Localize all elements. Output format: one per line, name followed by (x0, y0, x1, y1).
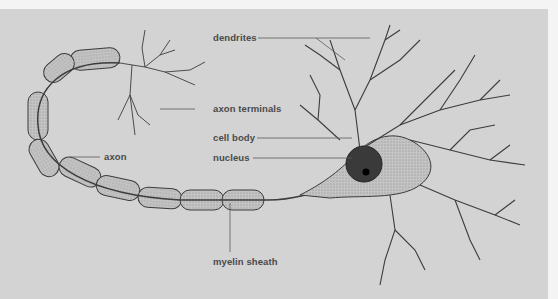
label-cell-body: cell body (213, 132, 255, 143)
axon-terminals (118, 30, 205, 135)
leader-lines (70, 38, 370, 252)
axon-core (38, 63, 350, 200)
myelin-sheath-segments (25, 47, 264, 210)
nucleus (346, 146, 382, 182)
label-nucleus: nucleus (213, 152, 250, 163)
neuron-illustration (0, 0, 558, 299)
nucleolus (363, 169, 370, 176)
label-dendrites: dendrites (213, 32, 257, 43)
label-axon-terminals: axon terminals (213, 103, 281, 114)
label-axon: axon (104, 151, 127, 162)
label-myelin-sheath: myelin sheath (213, 256, 278, 267)
